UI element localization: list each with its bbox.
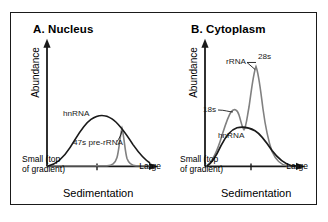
label-47s-pre-rrna: 47s pre-rRNA xyxy=(73,138,124,147)
panel-a-plot: hnRNA 47s pre-rRNA xyxy=(11,13,169,204)
figure-frame: A. Nucleus Abundance xyxy=(10,12,317,205)
panel-a-annotation-47s: 47s pre-rRNA xyxy=(73,131,124,147)
panel-b-x-left-label: Small (top of gradient) xyxy=(180,155,240,174)
panel-b-x-left-line2: of gradient) xyxy=(180,164,223,174)
label-rrna: rRNA xyxy=(226,57,247,66)
curve-rrna xyxy=(206,66,297,166)
panel-a-y-axis xyxy=(43,39,50,167)
panel-a-annotation-hnrna: hnRNA xyxy=(63,109,90,118)
panel-b-x-left-line1: Small (top xyxy=(180,154,218,164)
label-hnrna: hnRNA xyxy=(63,109,90,118)
panel-cytoplasm: B. Cytoplasm Abundance xyxy=(169,13,316,204)
panel-a-x-axis-label: Sedimentation xyxy=(63,187,133,199)
panel-b-plot: rRNA 28s 18s hnRNA xyxy=(169,13,316,204)
panel-nucleus: A. Nucleus Abundance xyxy=(11,13,169,204)
clipped-caption-strip xyxy=(0,208,328,222)
figure-root: A. Nucleus Abundance xyxy=(0,0,328,222)
panel-a-x-left-line1: Small (top xyxy=(22,154,60,164)
panel-b-annotation-hnrna: hnRNA xyxy=(218,131,245,140)
label-28s: 28s xyxy=(258,52,271,61)
panel-b-annotation-18s: 18s xyxy=(203,105,233,114)
panel-a-x-left-label: Small (top of gradient) xyxy=(22,155,82,174)
label-hnrna-b: hnRNA xyxy=(218,131,245,140)
panel-b-y-axis xyxy=(201,39,208,167)
panel-b-annotation-rrna: rRNA 28s xyxy=(226,52,271,70)
label-18s: 18s xyxy=(203,105,216,114)
panel-b-x-axis-label: Sedimentation xyxy=(221,187,291,199)
panel-b-x-right-label: Large xyxy=(286,161,308,171)
panel-a-x-right-label: Large xyxy=(139,161,161,171)
panel-a-x-left-line2: of gradient) xyxy=(22,164,65,174)
